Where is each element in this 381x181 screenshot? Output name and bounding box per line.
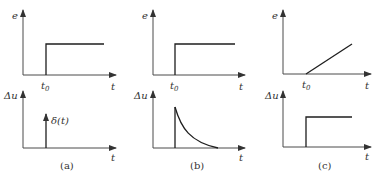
t0-marker-label: t0 <box>41 80 50 93</box>
x-axis-label: t <box>111 152 116 163</box>
panel-b-bottom-plot: Δu t <box>133 90 245 163</box>
step-signal <box>175 44 235 75</box>
y-axis-label: Δu <box>3 90 18 101</box>
panel-a-bottom-plot: δ(t) Δu t <box>3 90 116 163</box>
panel-c-bottom-plot: Δu t <box>264 90 371 162</box>
x-axis-label: t <box>239 81 244 92</box>
panel-c: e t t0 Δu t (c) <box>264 10 371 171</box>
x-axis-label: t <box>239 152 244 163</box>
panel-b-caption: (b) <box>190 160 204 171</box>
step-signal <box>46 44 104 75</box>
t0-marker-label: t0 <box>170 80 179 93</box>
impulse-label: δ(t) <box>51 115 69 126</box>
panel-a: e t t0 δ(t) Δu t (a) <box>3 10 116 171</box>
panel-b-top-plot: e t t0 <box>142 10 245 93</box>
x-axis-label: t <box>111 81 116 92</box>
panel-c-caption: (c) <box>318 160 332 171</box>
ramp-signal <box>306 44 352 74</box>
x-axis-label: t <box>365 80 370 91</box>
panel-a-caption: (a) <box>60 160 74 171</box>
panel-a-top-plot: e t t0 <box>12 10 116 93</box>
t0-marker-label: t0 <box>302 79 311 92</box>
y-axis-label: Δu <box>264 90 279 101</box>
panel-b: e t t0 Δu t (b) <box>133 10 245 171</box>
step-signal <box>306 117 352 147</box>
x-axis-label: t <box>365 151 370 162</box>
exponential-decay-curve <box>175 107 218 148</box>
response-diagram: e t t0 δ(t) Δu t (a) e t t0 Δu <box>0 0 381 181</box>
y-axis-label: Δu <box>133 90 148 101</box>
y-axis-label: e <box>272 10 278 21</box>
y-axis-label: e <box>142 10 148 21</box>
y-axis-label: e <box>12 10 18 21</box>
panel-c-top-plot: e t t0 <box>272 10 371 92</box>
